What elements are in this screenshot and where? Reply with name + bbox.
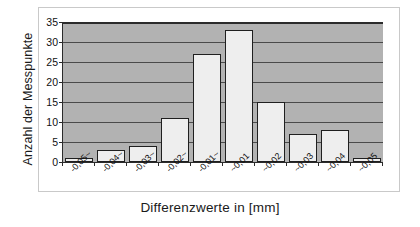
x-axis-title: Differenzwerte in [mm] bbox=[0, 200, 420, 215]
bar-slot bbox=[127, 22, 159, 162]
bar-slot bbox=[255, 22, 287, 162]
bar-series bbox=[63, 22, 383, 162]
bar-slot bbox=[191, 22, 223, 162]
bar bbox=[257, 102, 285, 162]
y-axis-title: Anzahl der Messpunkte bbox=[21, 9, 35, 189]
bar bbox=[225, 30, 253, 162]
bar-slot bbox=[319, 22, 351, 162]
x-tick-mark bbox=[382, 162, 383, 166]
bar-slot bbox=[159, 22, 191, 162]
plot-area bbox=[62, 22, 383, 163]
bar-slot bbox=[63, 22, 95, 162]
bar-slot bbox=[223, 22, 255, 162]
bar-slot bbox=[287, 22, 319, 162]
bar-slot bbox=[95, 22, 127, 162]
bar-slot bbox=[351, 22, 383, 162]
bar bbox=[193, 54, 221, 162]
